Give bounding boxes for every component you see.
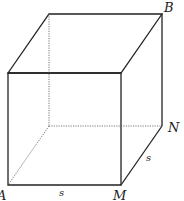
hidden-edge-left-bottom — [8, 126, 49, 185]
label-side-right: s — [146, 152, 151, 163]
label-M: M — [112, 188, 127, 201]
visible-edges — [8, 14, 162, 185]
top-face — [8, 14, 162, 73]
cube-diagram: B N M A s s — [0, 0, 184, 201]
edge-M-N — [121, 126, 162, 185]
label-side-bottom: s — [59, 187, 64, 198]
label-N: N — [167, 120, 180, 135]
label-B: B — [163, 0, 174, 15]
label-A: A — [0, 188, 6, 201]
front-face — [8, 73, 121, 185]
